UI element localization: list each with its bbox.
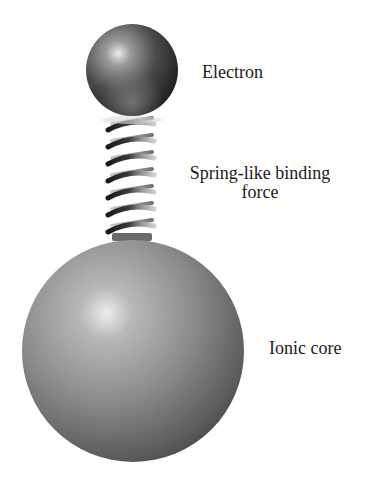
oscillator-diagram xyxy=(0,0,379,481)
electron-label: Electron xyxy=(202,63,263,82)
spring-force-label-line2: force xyxy=(170,183,350,202)
spring-force-label-line1: Spring-like binding xyxy=(170,164,350,183)
spring-force-label: Spring-like binding force xyxy=(170,164,350,202)
spring-coil-icon xyxy=(108,118,154,241)
ionic-core-label: Ionic core xyxy=(269,339,341,358)
ionic-core-sphere xyxy=(22,240,244,462)
electron-sphere xyxy=(86,24,178,124)
